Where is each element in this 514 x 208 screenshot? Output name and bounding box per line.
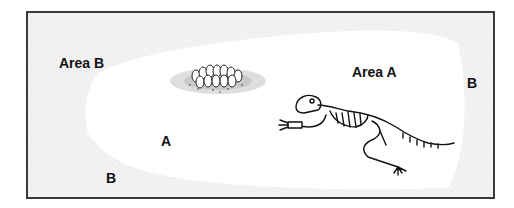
area-b-label: Area B — [59, 56, 104, 70]
diagram-frame: Area B Area A B A B — [26, 11, 495, 199]
area-a-label: Area A — [352, 65, 397, 79]
region-b-bottom-label: B — [106, 171, 116, 185]
egg-nest-icon — [168, 57, 268, 97]
region-b-right-label: B — [467, 76, 477, 90]
region-a-middle-label: A — [161, 134, 171, 148]
dinosaur-skeleton-icon — [268, 85, 458, 185]
